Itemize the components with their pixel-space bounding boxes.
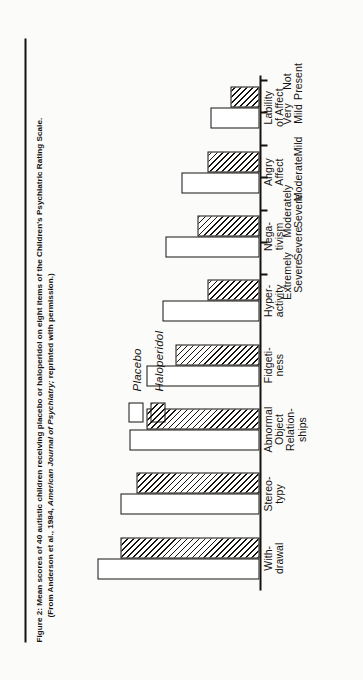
category-label: With- drawal bbox=[262, 521, 284, 595]
legend-swatch-haloperidol bbox=[150, 402, 165, 422]
figure-caption-source-a: (From Anderson et al., 1984, bbox=[45, 505, 54, 617]
bar-haloperidol bbox=[230, 86, 259, 107]
category-label: Abnormal Object Relation- ships bbox=[262, 392, 307, 466]
bar-haloperidol bbox=[207, 279, 259, 300]
figure-caption-source-b: reprinted with permission.) bbox=[45, 273, 54, 380]
legend-item-placebo: Placebo bbox=[128, 330, 143, 422]
bar-placebo bbox=[120, 493, 259, 514]
legend-swatch-placebo bbox=[128, 402, 143, 422]
legend-item-haloperidol: Haloperidol bbox=[150, 330, 165, 422]
bar-group: Nega- tivism bbox=[62, 204, 259, 268]
legend-label-haloperidol: Haloperidol bbox=[152, 330, 164, 391]
bar-group: Hyper- activity bbox=[62, 268, 259, 332]
figure-caption-source: (From Anderson et al., 1984, American Jo… bbox=[44, 36, 55, 642]
figure-caption-label: Figure 2: bbox=[34, 607, 43, 642]
chart-legend: Placebo Haloperidol bbox=[128, 330, 172, 422]
category-label: Hyper- activity bbox=[262, 263, 284, 337]
bar-group: Lability of Affect bbox=[62, 75, 259, 139]
bar-placebo bbox=[97, 558, 259, 579]
scanned-figure-page: Not PresentVery MildMildModerateModerate… bbox=[0, 0, 363, 680]
legend-label-placebo: Placebo bbox=[130, 348, 142, 391]
bar-placebo bbox=[181, 172, 259, 193]
category-label: Stereo- typy bbox=[262, 456, 284, 530]
category-label: Fidgeti- ness bbox=[262, 328, 284, 402]
page-rule-divider bbox=[24, 38, 26, 642]
bar-haloperidol bbox=[136, 472, 259, 493]
rotated-figure-stage: Not PresentVery MildMildModerateModerate… bbox=[0, 0, 363, 680]
category-label: Angry Affect bbox=[262, 135, 284, 209]
bar-haloperidol bbox=[175, 344, 259, 365]
category-label: Nega- tivism bbox=[262, 199, 284, 273]
figure-caption-journal: American Journal of Psychiatry; bbox=[45, 380, 54, 505]
bar-placebo bbox=[210, 107, 259, 128]
bar-haloperidol bbox=[207, 151, 259, 172]
bar-group: Stereo- typy bbox=[62, 461, 259, 525]
bar-group: With- drawal bbox=[62, 526, 259, 590]
bar-chart: Not PresentVery MildMildModerateModerate… bbox=[62, 75, 305, 590]
bar-placebo bbox=[129, 429, 259, 450]
bar-placebo bbox=[162, 300, 259, 321]
bar-group: Angry Affect bbox=[62, 139, 259, 203]
figure-caption-text: Mean scores of 40 autistic children rece… bbox=[34, 117, 43, 605]
figure-caption: Figure 2: Mean scores of 40 autistic chi… bbox=[33, 36, 56, 642]
bar-placebo bbox=[165, 236, 259, 257]
bar-haloperidol bbox=[197, 215, 259, 236]
bar-haloperidol bbox=[120, 537, 259, 558]
category-label: Lability of Affect bbox=[262, 70, 284, 144]
